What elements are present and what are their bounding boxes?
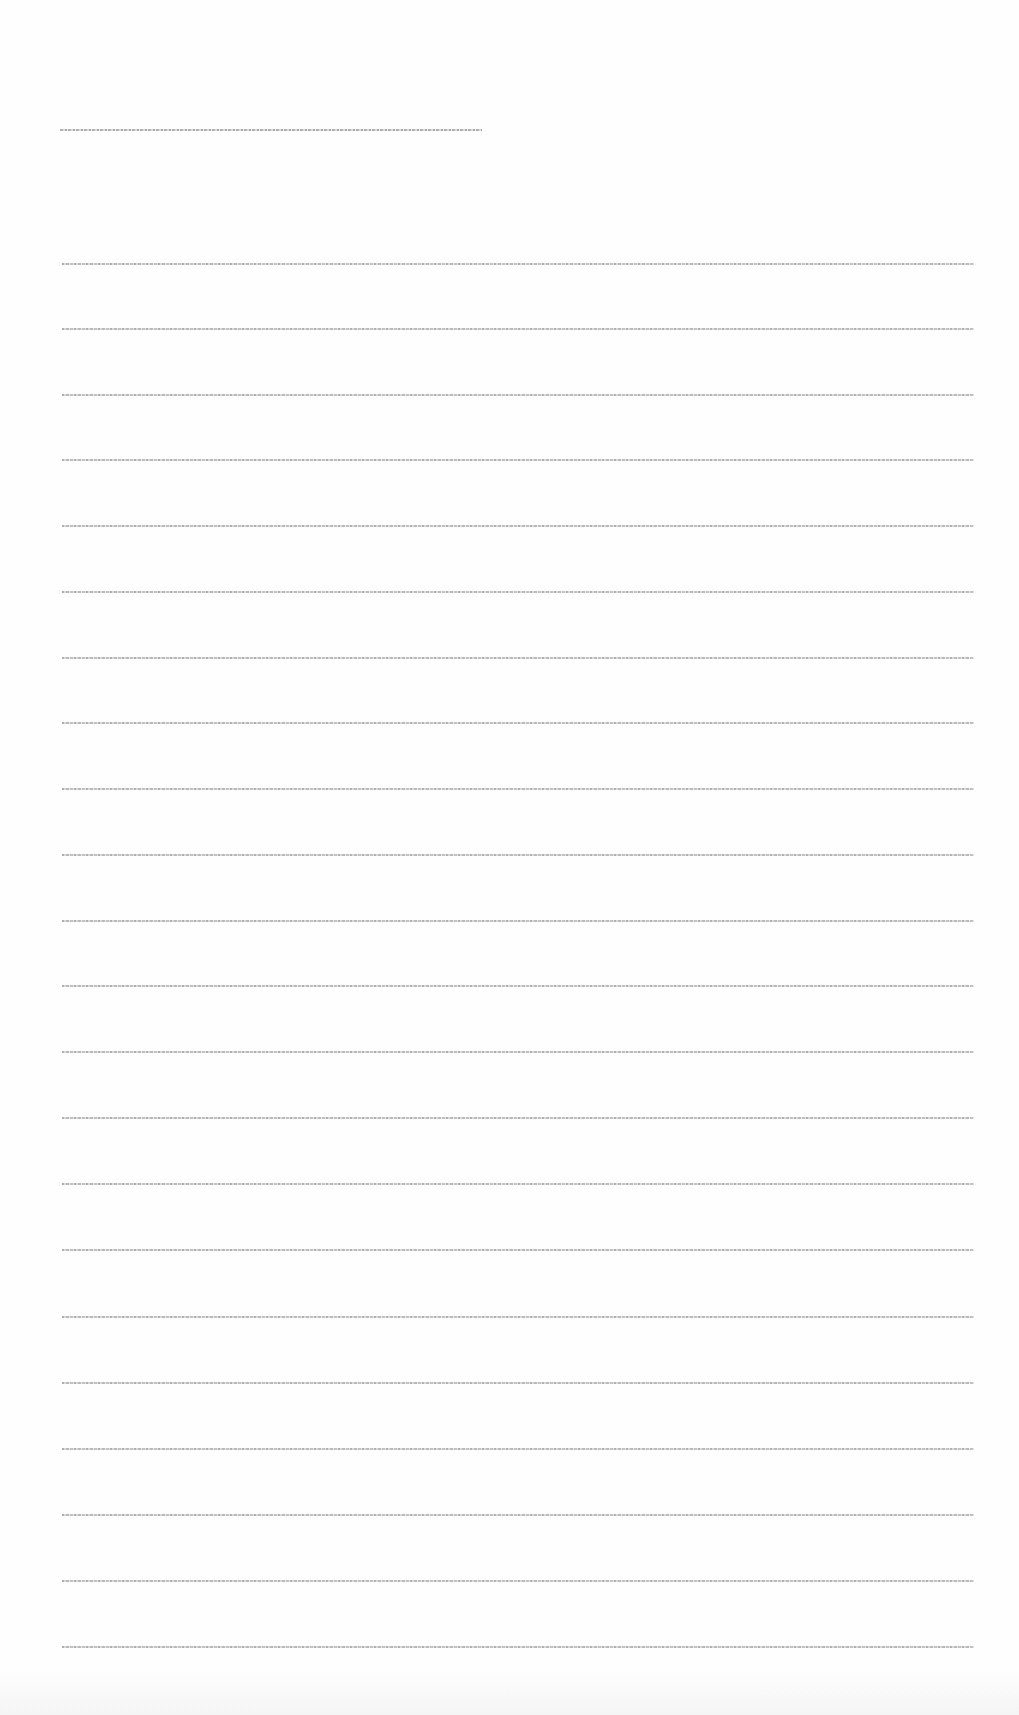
text-line: [illegible text line 9] [62, 788, 974, 790]
text-line: [illegible text line 19] [62, 1448, 974, 1450]
text-line: [illegible text line 14] [62, 1117, 974, 1119]
text-line: [illegible text line 8] [62, 722, 974, 724]
document-page: [illegible title text] [illegible text l… [0, 0, 1019, 1715]
text-line: [illegible text line 16] [62, 1249, 974, 1251]
text-line: [illegible text line 15] [62, 1183, 974, 1185]
text-line: [illegible text line 7] [62, 657, 974, 659]
text-line: [illegible text line 12] [62, 985, 974, 987]
text-line: [illegible text line 21] [62, 1580, 974, 1582]
text-line: [illegible text line 3] [62, 394, 974, 396]
text-line: [illegible text line 6] [62, 591, 974, 593]
text-line: [illegible text line 13] [62, 1051, 974, 1053]
text-line: [illegible text line 22] [62, 1646, 974, 1648]
text-line: [illegible text line 4] [62, 459, 974, 461]
text-line: [illegible text line 5] [62, 525, 974, 527]
text-line: [illegible text line 18] [62, 1382, 974, 1384]
text-line: [illegible text line 1] [62, 263, 974, 265]
text-line: [illegible text line 20] [62, 1514, 974, 1516]
document-title: [illegible title text] [60, 129, 482, 131]
text-line: [illegible text line 17] [62, 1316, 974, 1318]
text-line: [illegible text line 2] [62, 328, 974, 330]
text-line: [illegible text line 10] [62, 854, 974, 856]
text-line: [illegible text line 11] [62, 920, 974, 922]
page-bottom-edge [0, 1670, 1019, 1715]
